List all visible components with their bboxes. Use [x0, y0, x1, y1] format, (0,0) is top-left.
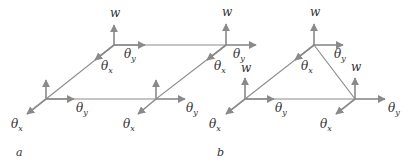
theta-y-label: θy	[76, 101, 88, 117]
theta-y-label: θy	[388, 101, 400, 117]
figure-b-triangle-element: wθyθxwθyθxwθyθxb	[209, 5, 400, 159]
w-label: w	[222, 5, 233, 19]
theta-x-label: θx	[214, 59, 226, 75]
theta-x-arrow-icon	[95, 45, 114, 60]
figure-caption-a: a	[16, 146, 23, 159]
theta-x-arrow-icon	[138, 99, 156, 114]
theta-x-arrow-icon	[336, 99, 355, 114]
theta-y-label: θy	[124, 47, 136, 63]
node-a-0: θyθx	[11, 80, 88, 133]
theta-x-arrow-icon	[226, 99, 245, 114]
node-b-2: wθyθx	[320, 60, 400, 133]
w-label: w	[110, 6, 121, 20]
theta-x-label: θx	[320, 117, 332, 133]
theta-x-label: θx	[101, 59, 113, 75]
theta-x-arrow-icon	[27, 99, 46, 114]
theta-y-label: θy	[334, 47, 346, 63]
node-a-1: wθyθx	[95, 6, 145, 75]
w-label: w	[310, 5, 321, 19]
w-label: w	[351, 60, 362, 74]
theta-x-arrow-icon	[295, 45, 314, 60]
node-b-1: wθyθx	[295, 5, 346, 75]
w-label: w	[241, 61, 252, 75]
theta-y-label: θy	[275, 101, 287, 117]
theta-x-label: θx	[123, 117, 135, 133]
parallelogram-surface	[46, 45, 226, 99]
plate-element-dof-diagram: θyθxwθyθxwθyθxθyθxa wθyθxwθyθxwθyθxb	[0, 0, 407, 166]
theta-y-label: θy	[186, 101, 198, 117]
theta-x-label: θx	[11, 117, 23, 133]
node-a-3: θyθx	[123, 80, 198, 133]
theta-x-label: θx	[301, 59, 313, 75]
theta-x-label: θx	[209, 117, 221, 133]
figure-caption-b: b	[217, 146, 224, 159]
figure-a-parallelogram-element: θyθxwθyθxwθyθxθyθxa	[11, 5, 256, 159]
theta-x-arrow-icon	[207, 45, 226, 60]
